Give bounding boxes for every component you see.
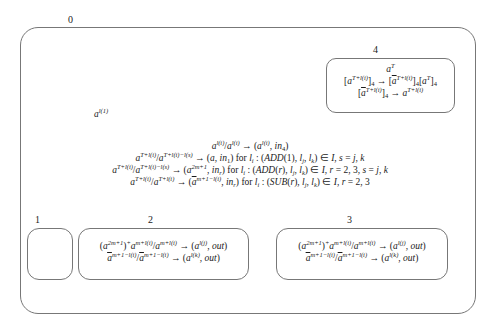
skin-rule-4: aT+l(i)/aT+l(i) → (am+1−l(i), inr) for l… bbox=[60, 176, 440, 188]
skin-rules: al(i)/al(i) → (al(i), in4) aT+l(i)/aT+l(… bbox=[60, 140, 440, 188]
skin-rule-1: al(i)/al(i) → (al(i), in4) bbox=[60, 140, 440, 152]
m4-object: aT bbox=[326, 63, 455, 75]
skin-object: al(1) bbox=[94, 108, 108, 120]
membrane-1-label: 1 bbox=[35, 214, 40, 225]
membrane-3-label: 3 bbox=[347, 214, 352, 225]
m4-rule-2: [aT+l(i)]4 → aT+l(i) bbox=[326, 87, 455, 99]
membrane-2-label: 2 bbox=[148, 214, 153, 225]
membrane-4-label: 4 bbox=[373, 44, 378, 55]
m4-rule-1: [aT+l(i)]4 → [aT+l(i)]4[aT]4 bbox=[326, 75, 455, 87]
skin-rule-3: aT+l(i)/aT+l(i)−l(s) → (a2m+1, inr) for … bbox=[60, 164, 440, 176]
membrane-2-rules: (a2m+1)+am+l(i)/am+l(i) → (al(j), out) a… bbox=[78, 240, 249, 264]
m3-rule-2: am+1−l(i)/am+1−l(i) → (al(k), out) bbox=[276, 252, 448, 264]
membrane-0-label: 0 bbox=[68, 14, 73, 25]
membrane-3-rules: (a2m+1)+am+l(i)/am+l(i) → (al(j), out) a… bbox=[276, 240, 448, 264]
m2-rule-2: am+1−l(i)/am+1−l(i) → (al(k), out) bbox=[78, 252, 249, 264]
membrane-4-contents: aT [aT+l(i)]4 → [aT+l(i)]4[aT]4 [aT+l(i)… bbox=[326, 63, 455, 99]
membrane-1 bbox=[27, 228, 73, 280]
